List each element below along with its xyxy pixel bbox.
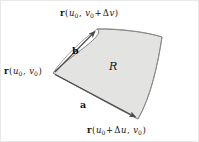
vector-r-symbol-left: r [4, 66, 9, 76]
region-r-label: R [109, 61, 117, 72]
vector-b-label: b [72, 46, 79, 56]
u-subscript-bottom: 0 [102, 129, 106, 136]
vector-a-label: a [80, 100, 86, 110]
point-label-top: r(u0, v0+Δv) [60, 9, 119, 19]
region-r-patch [53, 29, 162, 119]
du-symbol-bottom: u [121, 125, 127, 135]
vector-r-symbol-top: r [60, 8, 65, 18]
delta-symbol-bottom: Δ [114, 125, 121, 135]
u-subscript-top: 0 [75, 12, 79, 19]
plus-sign-bottom: + [106, 125, 114, 135]
point-label-bottom-right: r(u0+Δu, v0) [87, 126, 146, 136]
paren-close-top: ) [114, 8, 118, 18]
paren-close-bottom: ) [142, 125, 146, 135]
parametric-surface-figure: r(u0, v0+Δv) r(u0, v0) r(u0+Δu, v0) b a … [0, 0, 199, 142]
paren-close-left: ) [38, 66, 42, 76]
vector-r-symbol-bottom: r [87, 125, 92, 135]
u-subscript-left: 0 [19, 70, 23, 77]
point-label-left: r(u0, v0) [4, 67, 42, 77]
plus-sign-top: + [94, 8, 102, 18]
